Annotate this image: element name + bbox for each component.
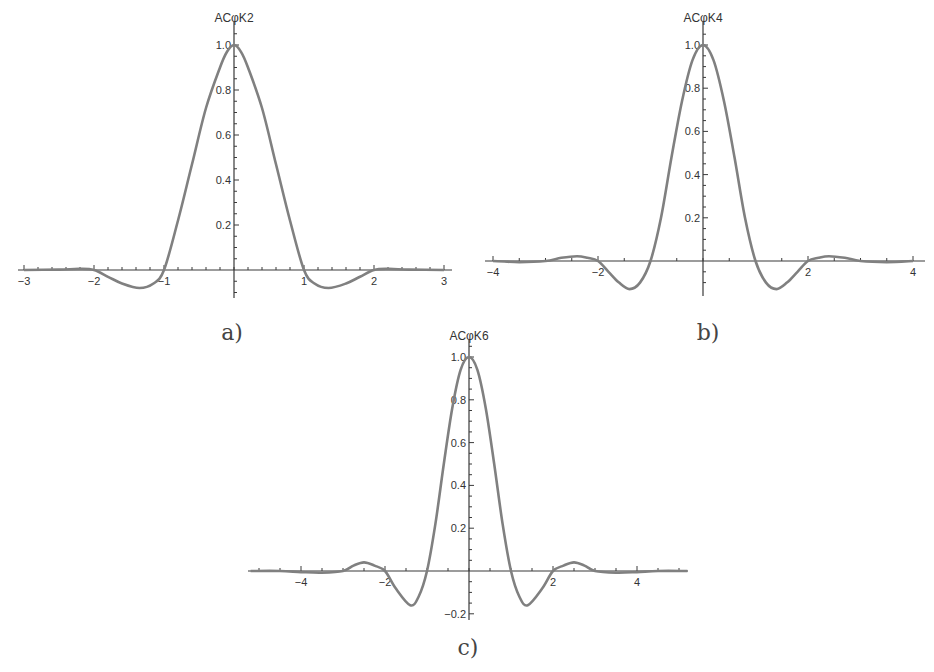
y-tick-label: 0.4 [216,174,231,186]
x-tick-label: −4 [295,576,308,588]
y-tick-label: 0.4 [685,169,700,181]
y-tick-label: 0.6 [685,125,700,137]
x-tick-label: 2 [805,266,811,278]
x-tick-label: −3 [18,275,31,287]
y-tick-label: 0.2 [216,219,231,231]
subfigure-caption: b) [697,320,720,345]
chart-title: ACφK2 [214,11,253,25]
y-tick-label: 0.2 [451,522,466,534]
y-tick-label: 0.6 [216,129,231,141]
x-tick-label: 4 [634,576,640,588]
y-tick-label: 0.6 [451,437,466,449]
subfigure-caption: c) [458,635,479,660]
chart-title: ACφK6 [449,329,488,343]
x-tick-label: −4 [487,266,500,278]
x-tick-label: 2 [550,576,556,588]
figure: −3−2−11230.20.40.60.81.0ACφK2a) −4−2240.… [0,0,934,672]
chart-a: −3−2−11230.20.40.60.81.0ACφK2a) [18,11,452,345]
chart-title: ACφK4 [683,11,722,25]
x-tick-label: −2 [592,266,605,278]
y-tick-label: 0.2 [685,212,700,224]
x-tick-label: −2 [88,275,101,287]
y-tick-label: −0.2 [444,608,466,620]
chart-c: −4−224−0.20.20.40.60.81.0ACφK6c) [248,329,688,660]
x-tick-label: 2 [371,275,377,287]
x-tick-label: 4 [910,266,916,278]
x-tick-label: 3 [441,275,447,287]
subfigure-caption: a) [221,320,243,345]
y-tick-label: 0.8 [216,84,231,96]
y-tick-label: 0.4 [451,479,466,491]
chart-b: −4−2240.20.40.60.81.0ACφK4b) [485,11,925,345]
